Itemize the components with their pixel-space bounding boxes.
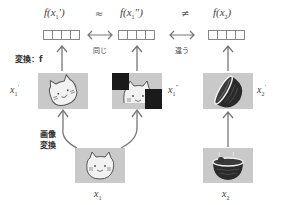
feature-label-x1-prime: f(x1′) (44, 6, 65, 20)
feature-vector-x1-dprime (118, 30, 155, 40)
same-label: 同じ (93, 45, 107, 55)
feature-label-x2: f(x2) (213, 6, 231, 20)
image-x1-dprime-occluded-cat (112, 73, 162, 109)
feature-label-x1-dprime: f(x1″) (120, 6, 143, 20)
label-x1-prime: x1′ (10, 84, 19, 97)
double-arrow-icon (168, 29, 196, 41)
up-arrow-icon (130, 44, 144, 72)
label-x2-prime: x2′ (257, 84, 266, 97)
feature-vector-x2 (208, 30, 245, 40)
label-x1: x1 (94, 188, 101, 201)
label-x2: x2 (222, 188, 229, 201)
up-arrow-icon (55, 44, 69, 72)
up-arrow-icon (221, 110, 235, 148)
up-arrow-icon (221, 44, 235, 72)
approx-symbol: ≈ (95, 8, 103, 19)
different-label: 違う (175, 45, 189, 55)
augment-label-line1: 画像 (40, 128, 56, 139)
augmentation-arrows (55, 108, 145, 150)
transform-label: 変換：f (15, 53, 42, 64)
feature-vector-x1-prime (43, 30, 80, 40)
augment-label-line2: 変換 (40, 139, 56, 150)
image-x2-prime-rotated-bowl (203, 73, 253, 109)
image-x1-cat (75, 148, 125, 183)
image-x1-prime-rotated-cat (38, 73, 88, 109)
label-x1-dprime: x1″ (168, 84, 178, 97)
not-equal-symbol: ≠ (181, 8, 189, 19)
double-arrow-icon (86, 29, 114, 41)
image-x2-bowl (203, 148, 253, 183)
